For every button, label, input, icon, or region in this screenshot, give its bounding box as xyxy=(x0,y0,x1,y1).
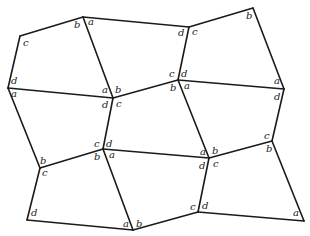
angle-label: a xyxy=(274,75,280,86)
angle-label: c xyxy=(264,130,270,141)
angle-label: c xyxy=(42,167,48,178)
quadrilateral-tiling-diagram: cbadcbdaabdccdbaadbccdbaabdccbdabcda xyxy=(0,0,310,236)
angle-label: b xyxy=(40,155,46,166)
edge-P5-P6 xyxy=(8,88,113,98)
angle-label: a xyxy=(123,218,129,229)
angle-label: b xyxy=(115,84,121,95)
angle-label: c xyxy=(116,98,122,109)
edge-P2-P3 xyxy=(83,17,189,27)
angle-label: c xyxy=(190,201,196,212)
angle-label: d xyxy=(31,207,37,218)
edge-P12-P16 xyxy=(272,141,304,221)
edge-P7-P8 xyxy=(178,80,284,89)
edge-P10-P11 xyxy=(103,149,209,158)
angle-label: a xyxy=(102,84,108,95)
angle-label: d xyxy=(178,27,184,38)
angle-label: b xyxy=(212,145,218,156)
edge-P15-P16 xyxy=(198,212,304,221)
angle-label: a xyxy=(293,207,299,218)
angle-label: c xyxy=(192,26,198,37)
edge-P13-P14 xyxy=(27,220,133,230)
angle-label: d xyxy=(199,160,205,171)
angle-label: d xyxy=(102,99,108,110)
angle-label: b xyxy=(170,82,176,93)
edge-P14-P15 xyxy=(133,212,198,230)
angle-label: d xyxy=(202,200,208,211)
edge-P6-P7 xyxy=(113,80,178,98)
edge-P3-P4 xyxy=(189,8,253,27)
angle-label: a xyxy=(11,88,17,99)
angle-label: d xyxy=(106,138,112,149)
angle-label: a xyxy=(184,80,190,91)
angle-label: d xyxy=(274,91,280,102)
edge-P5-P9 xyxy=(8,88,40,168)
tiling-edges xyxy=(8,8,304,230)
angle-label: b xyxy=(246,10,252,21)
angle-label: c xyxy=(23,37,29,48)
angle-label: b xyxy=(94,151,100,162)
angle-label: c xyxy=(94,138,100,149)
angle-label: b xyxy=(74,19,80,30)
edge-P2-P6 xyxy=(83,17,113,98)
angle-label: c xyxy=(213,158,219,169)
angle-label: b xyxy=(136,218,142,229)
angle-label: d xyxy=(181,68,187,79)
angle-label: c xyxy=(169,68,175,79)
angle-label: d xyxy=(11,75,17,86)
angle-label: a xyxy=(200,146,206,157)
angle-labels: cbadcbdaabdccdbaadbccdbaabdccbdabcda xyxy=(11,10,299,229)
angle-label: a xyxy=(109,149,115,160)
edge-P11-P12 xyxy=(209,141,272,158)
angle-label: a xyxy=(88,16,94,27)
angle-label: b xyxy=(266,143,272,154)
